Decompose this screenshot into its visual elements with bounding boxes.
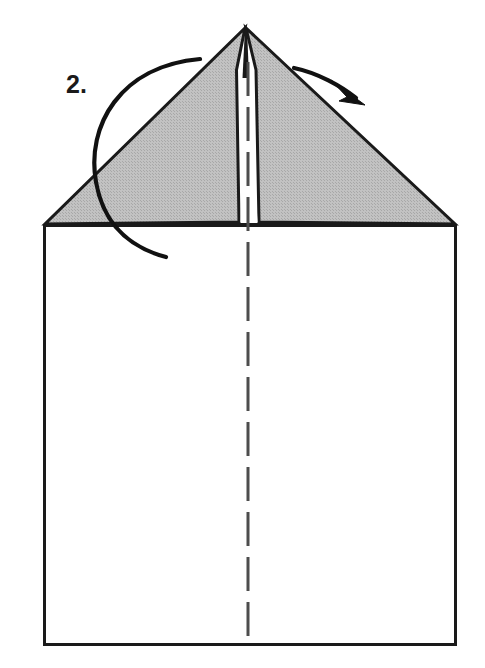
step-number-label: 2. (66, 72, 87, 97)
paper-sheet (45, 226, 456, 645)
origami-diagram-figure: 2. (0, 0, 485, 668)
right-fold-arrow-head (331, 80, 365, 105)
left-folded-flap (45, 28, 245, 224)
right-folded-flap (246, 28, 455, 224)
origami-diagram-canvas (0, 0, 485, 668)
